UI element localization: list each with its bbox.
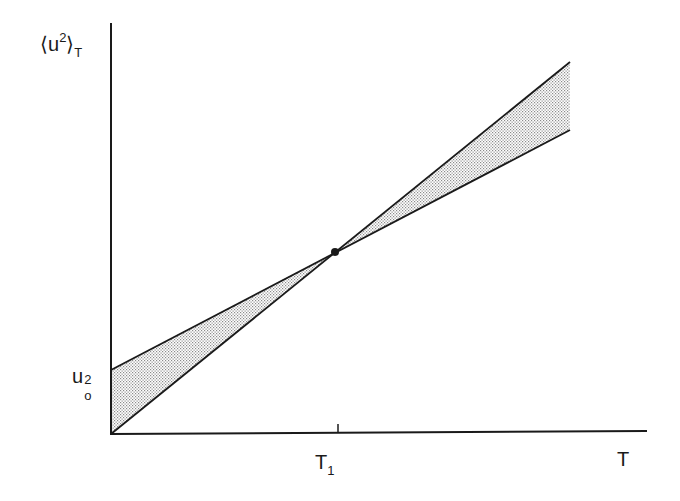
- x-axis: [110, 431, 647, 434]
- label-sub: o: [84, 389, 91, 402]
- y-axis-label: ⟨u2⟩T: [40, 34, 82, 54]
- shallow-line: [111, 130, 570, 370]
- intersection-point: [331, 248, 339, 256]
- x-axis-label: T: [617, 449, 629, 469]
- label-sub: T: [74, 45, 82, 60]
- steep-line: [111, 62, 570, 434]
- label-base: T: [315, 451, 327, 473]
- label-sup: 2: [59, 30, 66, 45]
- diagram-canvas: [0, 0, 680, 501]
- label-base: u: [72, 365, 83, 387]
- label-sup: 2: [84, 373, 91, 386]
- t1-label: T1: [315, 452, 334, 472]
- label-sub: 1: [327, 463, 334, 478]
- bracket-open: ⟨: [40, 33, 48, 55]
- label-base: u: [48, 33, 59, 55]
- u0-squared-label: u2o: [72, 366, 95, 386]
